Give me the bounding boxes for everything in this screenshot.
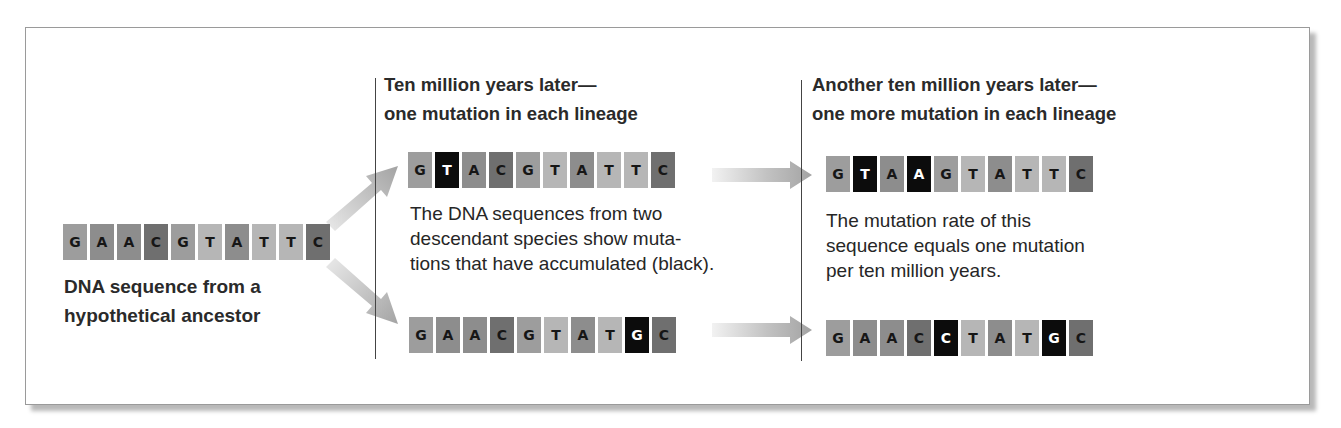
dna-base: C xyxy=(1069,156,1093,192)
dna-base: T xyxy=(252,224,276,260)
caption-line: DNA sequence from a xyxy=(64,272,261,301)
heading-line: Ten million years later— xyxy=(384,70,638,99)
heading-line: one more mutation in each lineage xyxy=(812,99,1116,128)
dna-base: C xyxy=(651,152,675,188)
mutated-base: C xyxy=(934,320,958,356)
dna-base: G xyxy=(409,317,433,353)
arrow-right-icon xyxy=(712,316,812,344)
mutated-base: A xyxy=(907,156,931,192)
dna-base: T xyxy=(1042,156,1066,192)
dna-base: G xyxy=(516,152,540,188)
dna-base: T xyxy=(624,152,648,188)
heading-line: one mutation in each lineage xyxy=(384,99,638,128)
dna-base: G xyxy=(826,156,850,192)
dna-base: A xyxy=(436,317,460,353)
dna-base: G xyxy=(408,152,432,188)
dna-base: A xyxy=(880,320,904,356)
description-line: descendant species show muta- xyxy=(410,226,714,251)
dna-base: A xyxy=(225,224,249,260)
description-line: tions that have accumulated (black). xyxy=(410,251,714,276)
stage1-bottom-sequence: GAACGTATGC xyxy=(409,317,676,353)
dna-base: C xyxy=(489,152,513,188)
dna-base: T xyxy=(544,317,568,353)
dna-base: C xyxy=(144,224,168,260)
mutated-base: G xyxy=(1042,320,1066,356)
dna-base: T xyxy=(597,152,621,188)
mutated-base: T xyxy=(853,156,877,192)
heading-line: Another ten million years later— xyxy=(812,70,1116,99)
dna-base: G xyxy=(517,317,541,353)
dna-base: T xyxy=(961,320,985,356)
dna-base: T xyxy=(961,156,985,192)
description-line: sequence equals one mutation xyxy=(826,233,1085,258)
dna-base: A xyxy=(571,317,595,353)
stage1-top-sequence: GTACGTATTC xyxy=(408,152,675,188)
stage2-description: The mutation rate of this sequence equal… xyxy=(826,208,1085,283)
dna-base: A xyxy=(988,156,1012,192)
dna-base: C xyxy=(490,317,514,353)
dna-base: A xyxy=(463,317,487,353)
dna-base: A xyxy=(880,156,904,192)
stage2-divider xyxy=(801,80,802,361)
description-line: The DNA sequences from two xyxy=(410,201,714,226)
stage2-top-sequence: GTAAGTATTC xyxy=(826,156,1093,192)
dna-base: T xyxy=(1015,320,1039,356)
dna-base: G xyxy=(934,156,958,192)
dna-base: C xyxy=(907,320,931,356)
stage2-heading: Another ten million years later— one mor… xyxy=(812,70,1116,128)
dna-base: T xyxy=(279,224,303,260)
stage1-heading: Ten million years later— one mutation in… xyxy=(384,70,638,128)
dna-base: T xyxy=(598,317,622,353)
mutated-base: G xyxy=(625,317,649,353)
dna-base: A xyxy=(570,152,594,188)
arrow-right-icon xyxy=(712,161,812,189)
dna-base: A xyxy=(988,320,1012,356)
ancestor-sequence: GAACGTATTC xyxy=(63,224,330,260)
dna-base: A xyxy=(462,152,486,188)
description-line: The mutation rate of this xyxy=(826,208,1085,233)
dna-base: C xyxy=(1069,320,1093,356)
dna-base: A xyxy=(117,224,141,260)
diagonal-arrow-up-right-icon xyxy=(326,166,398,231)
dna-base: C xyxy=(652,317,676,353)
dna-base: G xyxy=(171,224,195,260)
dna-base: G xyxy=(826,320,850,356)
dna-base: T xyxy=(198,224,222,260)
dna-base: C xyxy=(306,224,330,260)
description-line: per ten million years. xyxy=(826,258,1085,283)
dna-base: T xyxy=(543,152,567,188)
dna-base: A xyxy=(853,320,877,356)
diagonal-arrow-down-right-icon xyxy=(326,258,398,324)
ancestor-caption: DNA sequence from a hypothetical ancesto… xyxy=(64,272,261,330)
dna-base: T xyxy=(1015,156,1039,192)
stage1-divider xyxy=(375,78,376,359)
mutated-base: T xyxy=(435,152,459,188)
dna-base: G xyxy=(63,224,87,260)
dna-base: A xyxy=(90,224,114,260)
caption-line: hypothetical ancestor xyxy=(64,301,261,330)
stage2-bottom-sequence: GAACCTATGC xyxy=(826,320,1093,356)
stage1-description: The DNA sequences from two descendant sp… xyxy=(410,201,714,276)
